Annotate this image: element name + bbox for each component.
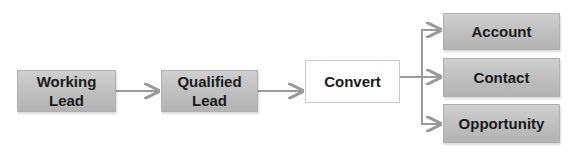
node-working-lead: WorkingLead	[17, 70, 116, 112]
node-opportunity: Opportunity	[443, 104, 560, 143]
node-label: QualifiedLead	[177, 72, 241, 110]
node-label: Contact	[474, 68, 530, 87]
node-account: Account	[443, 13, 560, 50]
node-label: Opportunity	[459, 114, 545, 133]
node-label: Convert	[324, 72, 381, 91]
arrow-convert-to-account	[422, 30, 440, 77]
node-convert: Convert	[305, 60, 400, 103]
node-label: Account	[472, 22, 532, 41]
node-qualified-lead: QualifiedLead	[161, 70, 258, 112]
arrow-convert-to-opportunity	[422, 77, 440, 124]
node-label: WorkingLead	[37, 72, 97, 110]
node-contact: Contact	[443, 58, 560, 97]
